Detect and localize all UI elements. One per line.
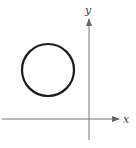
x-axis-label: x [123, 113, 130, 126]
circle [22, 44, 74, 96]
y-axis-label: y [84, 4, 92, 17]
coordinate-plane: x y [0, 0, 136, 148]
